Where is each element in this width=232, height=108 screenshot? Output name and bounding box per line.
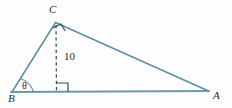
segment-side-BC xyxy=(12,23,56,93)
vertex-label-c: C xyxy=(49,4,56,15)
segment-base-BA xyxy=(11,91,209,92)
segment-side-CA xyxy=(56,23,209,92)
segment-altitude-CD xyxy=(56,25,57,91)
altitude-length-label: 10 xyxy=(64,51,75,62)
right-angle-marker-foot xyxy=(57,83,68,92)
vertex-label-a: A xyxy=(213,90,220,101)
geometry-figure: C B A θ 10 xyxy=(0,0,232,108)
triangle-diagram-svg xyxy=(0,0,232,108)
angle-label-theta: θ xyxy=(22,81,27,91)
vertex-label-b: B xyxy=(8,93,15,104)
